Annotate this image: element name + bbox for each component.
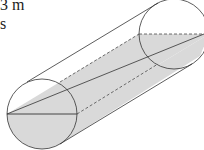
cylinder-diagram bbox=[0, 0, 204, 150]
